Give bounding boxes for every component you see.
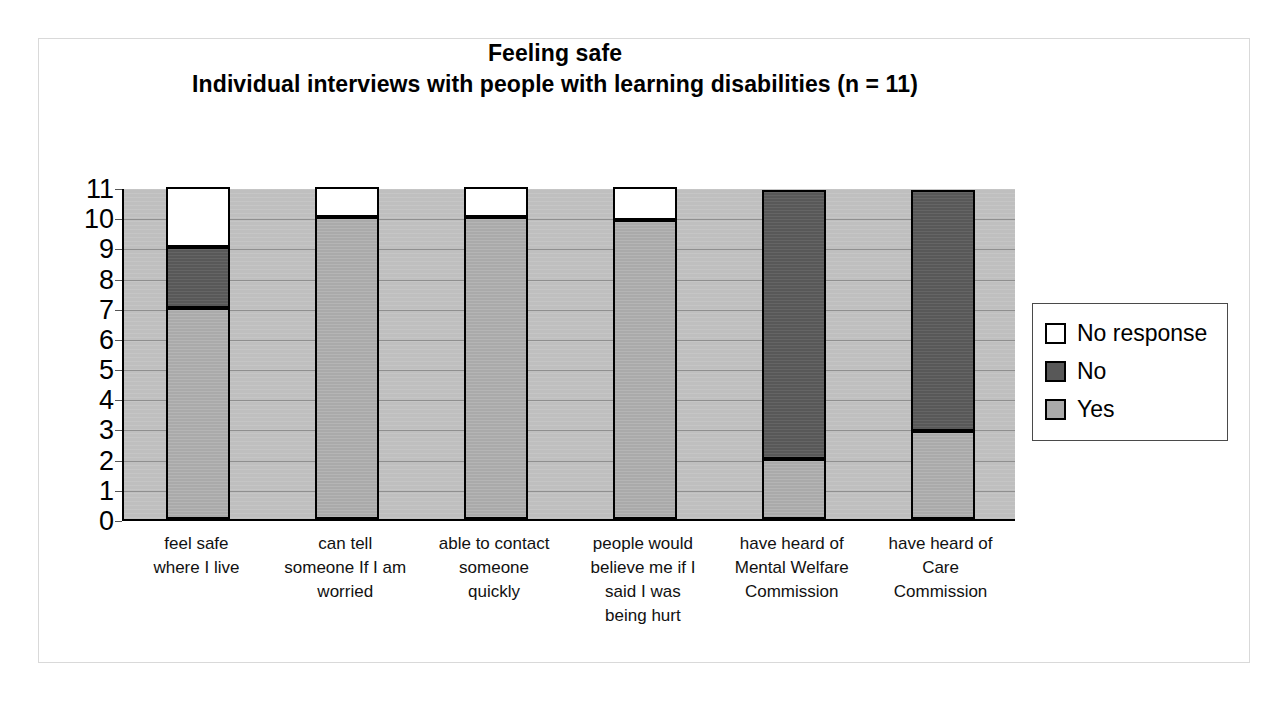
bar-slot [868, 189, 1017, 519]
bar-slot [124, 189, 273, 519]
x-tick-label-line: where I live [122, 556, 271, 580]
bar-segment-no-response[interactable] [613, 187, 677, 220]
chart-title: Feeling safe [0, 38, 1110, 68]
y-tick-label: 3 [99, 417, 114, 444]
bar-slot [571, 189, 720, 519]
legend-swatch-icon [1045, 323, 1066, 344]
x-tick-label-line: can tell [271, 532, 420, 556]
plot-area [122, 189, 1015, 521]
y-tick-mark [115, 249, 122, 250]
y-tick-mark [115, 310, 122, 311]
y-tick-label: 10 [84, 206, 114, 233]
bar-segment-yes[interactable] [911, 431, 975, 519]
x-tick-label-line: worried [271, 580, 420, 604]
legend-swatch-icon [1045, 361, 1066, 382]
chart-legend: No responseNoYes [1032, 303, 1228, 441]
bar-segment-yes[interactable] [464, 217, 528, 519]
y-tick-mark [115, 219, 122, 220]
bar-segment-no[interactable] [762, 190, 826, 459]
bar-segment-yes[interactable] [613, 220, 677, 519]
x-tick-label: have heard ofCareCommission [866, 532, 1015, 604]
x-tick-label: people wouldbelieve me if Isaid I wasbei… [569, 532, 718, 628]
x-tick-label-line: Care [866, 556, 1015, 580]
y-tick-label: 6 [99, 326, 114, 353]
y-tick-label: 1 [99, 477, 114, 504]
legend-swatch-icon [1045, 399, 1066, 420]
chart-subtitle: Individual interviews with people with l… [0, 68, 1110, 100]
bar-segment-yes[interactable] [315, 217, 379, 519]
x-tick-label-line: someone [420, 556, 569, 580]
x-tick-label-line: being hurt [569, 604, 718, 628]
x-tick-label-line: Mental Welfare [717, 556, 866, 580]
y-tick-mark [115, 340, 122, 341]
bar-slot [422, 189, 571, 519]
y-tick-mark [115, 400, 122, 401]
bar-group [124, 189, 1015, 519]
legend-item[interactable]: Yes [1045, 390, 1215, 428]
y-tick-label: 7 [99, 296, 114, 323]
legend-item[interactable]: No [1045, 352, 1215, 390]
x-tick-label-line: Commission [717, 580, 866, 604]
legend-label: No [1077, 360, 1106, 383]
x-tick-label-line: someone If I am [271, 556, 420, 580]
bar-segment-no-response[interactable] [464, 187, 528, 217]
bar-segment-no-response[interactable] [166, 187, 230, 247]
bar-segment-no-response[interactable] [315, 187, 379, 217]
y-tick-label: 11 [86, 176, 114, 203]
legend-label: Yes [1077, 398, 1115, 421]
x-tick-label: feel safewhere I live [122, 532, 271, 580]
y-tick-mark [115, 521, 122, 522]
x-tick-label-line: said I was [569, 580, 718, 604]
legend-label: No response [1077, 322, 1207, 345]
bar-segment-no[interactable] [166, 247, 230, 307]
y-tick-label: 2 [99, 447, 114, 474]
x-tick-label-line: people would [569, 532, 718, 556]
x-tick-label: can tellsomeone If I amworried [271, 532, 420, 604]
x-tick-label-line: Commission [866, 580, 1015, 604]
y-tick-mark [115, 189, 122, 190]
bar-slot [719, 189, 868, 519]
bar-slot [273, 189, 422, 519]
x-tick-label: able to contactsomeonequickly [420, 532, 569, 604]
y-tick-mark [115, 461, 122, 462]
x-tick-label-line: quickly [420, 580, 569, 604]
x-tick-label-line: have heard of [717, 532, 866, 556]
x-tick-label: have heard ofMental WelfareCommission [717, 532, 866, 604]
legend-item[interactable]: No response [1045, 314, 1215, 352]
y-axis-labels: 01234567891011 [58, 189, 114, 521]
y-tick-mark [115, 491, 122, 492]
y-tick-label: 5 [99, 357, 114, 384]
chart-title-block: Feeling safe Individual interviews with … [0, 38, 1110, 100]
y-tick-label: 9 [99, 236, 114, 263]
y-tick-mark [115, 280, 122, 281]
bar-segment-yes[interactable] [762, 459, 826, 519]
y-tick-label: 0 [99, 508, 114, 535]
x-tick-label-line: believe me if I [569, 556, 718, 580]
x-tick-label-line: have heard of [866, 532, 1015, 556]
x-tick-label-line: feel safe [122, 532, 271, 556]
x-tick-label-line: able to contact [420, 532, 569, 556]
bar-segment-yes[interactable] [166, 308, 230, 519]
y-tick-label: 4 [99, 387, 114, 414]
y-tick-mark [115, 430, 122, 431]
x-axis-labels: feel safewhere I livecan tellsomeone If … [122, 532, 1015, 642]
y-tick-label: 8 [99, 266, 114, 293]
chart-page: Feeling safe Individual interviews with … [0, 0, 1288, 701]
bar-segment-no[interactable] [911, 190, 975, 431]
y-tick-mark [115, 370, 122, 371]
